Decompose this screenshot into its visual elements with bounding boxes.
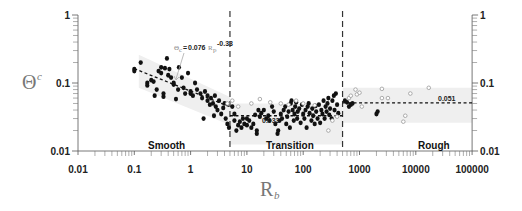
x-tick-label: 1: [188, 164, 194, 175]
data-point-filled: [180, 75, 184, 80]
data-point-filled: [165, 56, 169, 61]
data-point-filled: [279, 112, 283, 117]
data-point-filled: [245, 123, 249, 128]
data-point-filled: [289, 98, 293, 103]
data-point-filled: [145, 83, 149, 88]
data-point-filled: [167, 67, 171, 72]
regime-label-transition: Transition: [266, 140, 314, 151]
data-point-filled: [161, 94, 165, 99]
data-point-filled: [335, 102, 339, 107]
data-point-filled: [251, 122, 255, 127]
data-point-filled: [172, 81, 176, 86]
data-point-filled: [201, 116, 205, 121]
data-point-open: [301, 102, 305, 106]
x-axis-title: R b: [260, 178, 280, 201]
data-point-filled: [308, 111, 312, 116]
data-point-filled: [280, 116, 284, 121]
data-point-filled: [272, 109, 276, 114]
data-point-filled: [232, 118, 236, 123]
uncertainty-bands: [139, 55, 472, 145]
data-point-open: [358, 91, 362, 95]
data-point-filled: [247, 118, 251, 123]
data-point-open: [236, 105, 240, 109]
data-point-filled: [284, 122, 288, 127]
data-point-filled: [299, 120, 303, 125]
data-point-filled: [276, 128, 280, 133]
data-point-filled: [155, 87, 159, 92]
x-tick-label: 10: [241, 164, 253, 175]
data-point-filled: [307, 101, 311, 106]
data-point-filled: [215, 108, 219, 113]
data-point-filled: [321, 98, 325, 103]
x-tick-label: 10000: [402, 164, 430, 175]
data-point-filled: [139, 60, 143, 65]
data-point-filled: [328, 106, 332, 111]
regime-label-smooth: Smooth: [148, 140, 185, 151]
data-point-open: [427, 86, 431, 90]
data-point-filled: [318, 120, 322, 125]
data-point-open: [258, 97, 262, 101]
data-point-filled: [159, 71, 163, 76]
x-tick-label: 1000: [348, 164, 371, 175]
data-point-filled: [227, 125, 231, 130]
data-point-filled: [209, 96, 213, 101]
data-point-filled: [253, 112, 257, 117]
data-point-filled: [219, 112, 223, 117]
data-point-open: [287, 103, 291, 107]
data-point-filled: [132, 69, 136, 74]
data-point-open: [226, 102, 230, 106]
data-point-filled: [255, 128, 259, 133]
data-point-filled: [176, 87, 180, 92]
data-point-filled: [212, 113, 216, 118]
y-tick-label-left: 1: [64, 10, 70, 21]
data-point-filled: [151, 79, 155, 84]
chart: 0.010.11101001000100001000000.010.010.10…: [0, 0, 522, 211]
x-tick-label: 0.01: [68, 164, 88, 175]
data-point-filled: [217, 98, 221, 103]
data-point-filled: [330, 98, 334, 103]
data-point-filled: [163, 66, 167, 71]
data-point-filled: [297, 106, 301, 111]
data-point-filled: [200, 96, 204, 101]
data-point-filled: [302, 116, 306, 121]
regime-label-rough: Rough: [418, 140, 450, 151]
data-point-open: [409, 92, 413, 96]
x-axis-title-main: R: [260, 178, 274, 200]
data-point-filled: [311, 113, 315, 118]
y-tick-label-right: 0.01: [480, 146, 500, 157]
data-point-filled: [239, 125, 243, 130]
data-point-filled: [288, 125, 292, 130]
data-point-open: [386, 96, 390, 100]
data-point-filled: [203, 89, 207, 94]
data-point-filled: [293, 104, 297, 109]
data-point-filled: [314, 109, 318, 114]
data-point-filled: [230, 104, 234, 109]
data-point-filled: [193, 81, 197, 86]
data-point-filled: [323, 116, 327, 121]
data-point-filled: [159, 65, 163, 70]
x-axis-title-sub: b: [274, 189, 280, 201]
eq-theta-sub: c: [179, 46, 182, 54]
data-point-filled: [301, 112, 305, 117]
data-point-open: [403, 114, 407, 118]
data-point-filled: [232, 112, 236, 117]
data-point-filled: [241, 116, 245, 121]
data-point-filled: [376, 109, 380, 114]
data-point-filled: [295, 116, 299, 121]
eq-equals: =: [183, 44, 187, 51]
data-point-filled: [174, 97, 178, 102]
y-axis-title-sub: c: [37, 70, 42, 82]
data-point-filled: [169, 75, 173, 80]
smooth-fit-equation: Θ c = 0.076 R p -0.33: [174, 40, 233, 80]
data-point-open: [380, 87, 384, 91]
data-point-filled: [181, 85, 185, 90]
y-axis-title: Θ c: [22, 70, 42, 93]
data-point-filled: [305, 125, 309, 130]
data-point-open: [313, 103, 317, 107]
y-tick-label-right: 0.1: [480, 78, 494, 89]
data-point-open: [327, 129, 331, 133]
y-tick-label-right: 1: [480, 10, 486, 21]
data-point-open: [380, 96, 384, 100]
data-point-open: [354, 88, 358, 92]
data-point-filled: [326, 96, 330, 101]
